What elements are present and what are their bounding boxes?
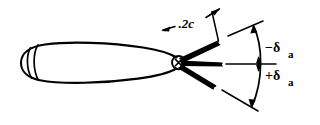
diagram-canvas: .2c −δ a bbox=[0, 0, 320, 125]
deflection-positive-label: +δ a bbox=[265, 68, 294, 88]
aileron-surface-down bbox=[179, 65, 216, 89]
wing-planform bbox=[21, 43, 177, 83]
deflection-negative-label: −δ a bbox=[265, 40, 294, 60]
deflection-negative-subscript: a bbox=[288, 48, 294, 60]
deflection-negative-symbol: −δ bbox=[265, 40, 280, 55]
aileron-deflection-diagram: .2c −δ a bbox=[0, 0, 320, 125]
deflection-positive-subscript: a bbox=[288, 76, 294, 88]
chord-dimension-label: .2c bbox=[179, 16, 195, 31]
aileron-surface-neutral bbox=[180, 61, 222, 66]
chord-dimension: .2c bbox=[161, 8, 220, 41]
aileron-surface-up bbox=[180, 41, 220, 62]
deflection-positive-symbol: +δ bbox=[265, 68, 280, 83]
deflection-angle-arc bbox=[249, 24, 262, 109]
leading-edge-cuff-lines bbox=[27, 45, 38, 80]
